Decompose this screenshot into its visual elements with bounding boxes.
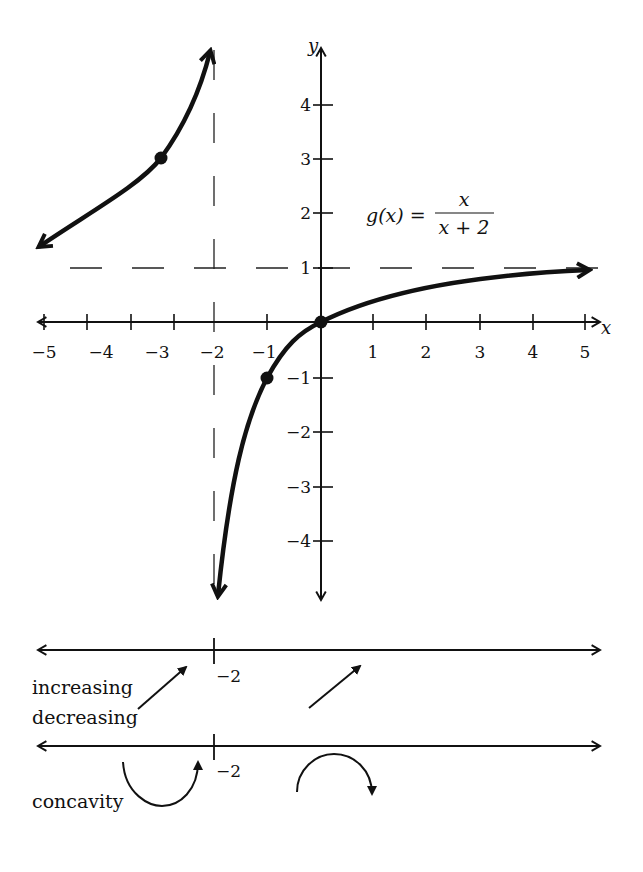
x-tick-label: 3 <box>475 342 486 362</box>
function-lhs: g(x) = <box>366 204 426 226</box>
y-tick-label: 3 <box>300 149 311 169</box>
point-neg1-neg1 <box>261 372 274 385</box>
concave-down-icon <box>297 754 372 794</box>
y-tick-label: 1 <box>300 258 311 278</box>
graph-figure: x −5 −4 −3 −2 −1 1 2 3 4 5 y 4 <box>0 0 643 872</box>
x-tick-label: 5 <box>580 342 591 362</box>
concavity-critical-label: −2 <box>216 761 241 781</box>
function-label: g(x) = x x + 2 <box>366 188 494 238</box>
y-axis-label: y <box>307 35 319 56</box>
x-tick-label: 1 <box>368 342 379 362</box>
x-tick-label: 4 <box>528 342 539 362</box>
concavity-number-line: −2 concavity <box>32 734 600 812</box>
function-numerator: x <box>459 188 470 210</box>
point-origin <box>315 316 328 329</box>
x-tick-label: −1 <box>251 342 276 362</box>
x-tick-label: −3 <box>144 342 169 362</box>
y-tick-label: 2 <box>300 203 311 223</box>
graph-svg: x −5 −4 −3 −2 −1 1 2 3 4 5 y 4 <box>0 0 643 872</box>
point-neg3-3 <box>155 152 168 165</box>
decreasing-label: decreasing <box>32 706 138 728</box>
x-tick-label: 2 <box>421 342 432 362</box>
curve-left-branch <box>40 52 210 246</box>
concavity-label: concavity <box>32 790 124 812</box>
y-tick-label: −1 <box>286 368 311 388</box>
x-tick-label: −2 <box>199 342 224 362</box>
y-tick-label: −4 <box>286 531 311 551</box>
x-tick-label: −5 <box>31 342 56 362</box>
y-tick-label: 4 <box>300 95 311 115</box>
increasing-arrow-icon <box>138 667 186 709</box>
x-axis-label: x <box>601 317 611 338</box>
y-tick-label: −2 <box>286 422 311 442</box>
increasing-arrow-icon <box>309 666 360 708</box>
mono-critical-label: −2 <box>216 666 241 686</box>
x-tick-label: −4 <box>88 342 113 362</box>
monotonicity-number-line: −2 increasing decreasing <box>32 638 600 728</box>
increasing-label: increasing <box>32 676 133 698</box>
function-denominator: x + 2 <box>439 216 490 238</box>
concave-up-icon <box>123 762 198 806</box>
y-tick-label: −3 <box>286 477 311 497</box>
